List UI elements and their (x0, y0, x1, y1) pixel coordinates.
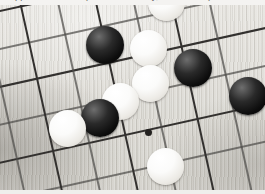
grid-line-horizontal (0, 4, 265, 30)
cropped-caption-strip: cropped line of text (descenders only, u… (0, 0, 265, 5)
black-stone-right-edge[interactable] (229, 77, 265, 115)
white-stone-upper-mid[interactable] (130, 30, 167, 67)
black-stone-upper-left[interactable] (86, 26, 124, 64)
black-stone-lower-mid[interactable] (81, 99, 119, 137)
white-stone-bottom[interactable] (147, 148, 184, 185)
bottom-border-strip (0, 190, 265, 194)
star-point-hoshi (145, 129, 152, 136)
go-board-photograph: cropped line of text (descenders only, u… (0, 0, 265, 194)
goban-surface (0, 4, 265, 191)
cropped-caption-text: cropped line of text (descenders only, u… (2, 0, 211, 1)
black-stone-upper-right[interactable] (174, 49, 212, 87)
white-stone-lower-left[interactable] (49, 110, 86, 147)
